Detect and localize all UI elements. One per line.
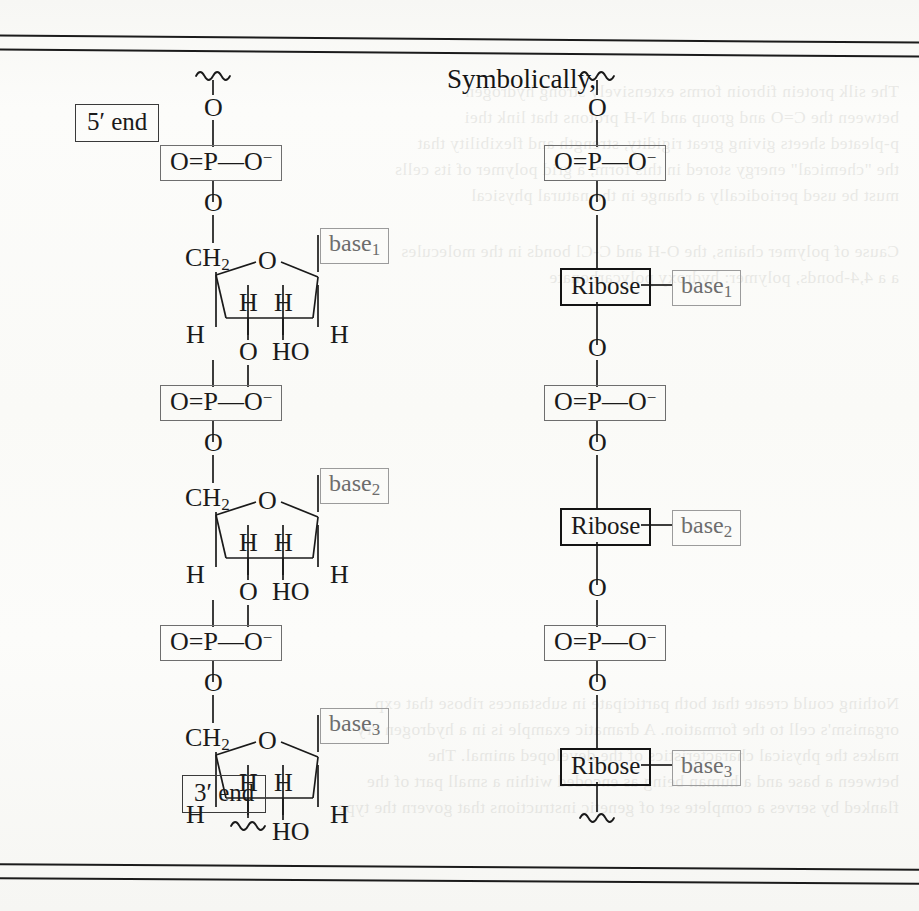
oxygen-atom: O [204,668,223,698]
methylene-subscript: 2 [221,255,230,274]
phosphate-charge: − [647,148,657,167]
ribose-block-1: Ribose [560,268,651,306]
base-label: base [681,752,724,778]
phosphorus-atom: P [587,147,601,176]
methylene-group: CH2 [185,483,230,515]
phosphorus-atom: P [587,627,601,656]
hydrogen-atom: H [239,768,258,798]
oxygen-atom: O [588,573,607,603]
phosphorus-atom: P [203,147,217,176]
phosphate-double-bond: = [573,627,588,656]
oxygen-atom: O [239,577,258,607]
phosphate-left-oxygen: O [554,627,573,656]
symbolically-caption: Symbolically, [447,64,596,95]
base-label: base [681,512,724,538]
ring-oxygen: O [258,486,277,516]
base-label: base [681,272,724,298]
hydrogen-atom: H [330,320,349,350]
hydrogen-atom: H [274,768,293,798]
methylene-label: CH [185,483,221,512]
phosphate-left-oxygen: O [170,627,189,656]
phosphorus-atom: P [203,627,217,656]
oxygen-atom: O [204,188,223,218]
phosphate-single-bond: — [218,387,244,416]
oxygen-atom: O [588,333,607,363]
methylene-label: CH [185,723,221,752]
base-box-sym-2: base2 [672,510,741,546]
base-label: base [329,230,372,256]
oxygen-atom: O [204,93,223,123]
base-subscript: 2 [372,480,381,499]
phosphate-double-bond: = [189,387,204,416]
ring-oxygen: O [258,246,277,276]
hydroxyl-group: HO [272,337,310,367]
hydrogen-atom: H [239,288,258,318]
phosphate-right-oxygen: O [244,147,263,176]
phosphate-charge: − [263,388,273,407]
phosphate-left-oxygen: O [170,387,189,416]
phosphate-group-3: O=P—O− [160,625,282,661]
ring-oxygen: O [258,726,277,756]
hydroxyl-group: HO [272,577,310,607]
phosphate-single-bond: — [602,627,628,656]
hydrogen-atom: H [330,560,349,590]
phosphate-group-1: O=P—O− [160,145,282,181]
phosphate-right-oxygen: O [628,627,647,656]
phosphate-left-oxygen: O [554,147,573,176]
oxygen-atom: O [588,93,607,123]
phosphate-left-oxygen: O [554,387,573,416]
base-label: base [329,470,372,496]
phosphate-single-bond: — [602,387,628,416]
phosphate-right-oxygen: O [244,627,263,656]
oxygen-atom: O [239,337,258,367]
phosphorus-atom: P [203,387,217,416]
phosphate-right-oxygen: O [244,387,263,416]
phosphate-double-bond: = [573,147,588,176]
hydrogen-atom: H [274,528,293,558]
base-subscript: 1 [372,240,381,259]
base-box-2: base2 [320,468,389,504]
base-box-3: base3 [320,708,389,744]
base-label: base [329,710,372,736]
phosphate-group-sym-3: O=P—O− [544,625,666,661]
phosphate-right-oxygen: O [628,147,647,176]
hydrogen-atom: H [330,800,349,830]
phosphate-charge: − [263,148,273,167]
phosphate-left-oxygen: O [170,147,189,176]
methylene-group: CH2 [185,243,230,275]
hydroxyl-group: HO [272,817,310,847]
ribose-block-3: Ribose [560,748,651,786]
hydrogen-atom: H [239,528,258,558]
base-box-1: base1 [320,228,389,264]
base-subscript: 3 [372,720,381,739]
base-subscript: 2 [724,522,733,541]
methylene-group: CH2 [185,723,230,755]
phosphate-single-bond: — [218,147,244,176]
phosphorus-atom: P [587,387,601,416]
phosphate-double-bond: = [573,387,588,416]
oxygen-atom: O [204,428,223,458]
base-box-sym-3: base3 [672,750,741,786]
base-box-sym-1: base1 [672,270,741,306]
base-subscript: 3 [724,762,733,781]
phosphate-single-bond: — [218,627,244,656]
oxygen-atom: O [588,428,607,458]
phosphate-double-bond: = [189,147,204,176]
ribose-block-2: Ribose [560,508,651,546]
phosphate-single-bond: — [602,147,628,176]
methylene-subscript: 2 [221,495,230,514]
phosphate-group-sym-1: O=P—O− [544,145,666,181]
hydrogen-atom: H [186,320,205,350]
methylene-label: CH [185,243,221,272]
phosphate-right-oxygen: O [628,387,647,416]
phosphate-group-2: O=P—O− [160,385,282,421]
hydrogen-atom: H [186,800,205,830]
figure-canvas: Symbolically, 5′ end 3′ end O O O O O O … [0,0,919,911]
phosphate-group-sym-2: O=P—O− [544,385,666,421]
methylene-subscript: 2 [221,735,230,754]
five-prime-end-label: 5′ end [75,104,159,142]
oxygen-atom: O [588,668,607,698]
phosphate-double-bond: = [189,627,204,656]
oxygen-atom: O [588,188,607,218]
phosphate-charge: − [647,388,657,407]
